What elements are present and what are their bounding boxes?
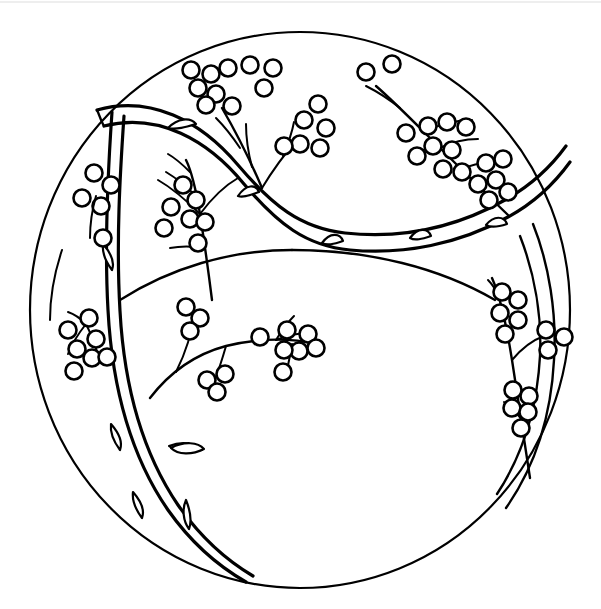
thorn-spur-group: [103, 119, 507, 518]
berry-branch-left-crescent: [50, 196, 96, 320]
leaf-group: [171, 443, 204, 529]
berry-branch-upper-right: [358, 56, 517, 216]
berry-branch-center: [150, 299, 325, 401]
inner-arc-vine-right: [497, 224, 555, 508]
berry-branch-right: [488, 278, 573, 478]
berry-branch-upper-left: [183, 57, 335, 189]
coloring-page-canvas: A large outlined circle divided by a swe…: [0, 0, 601, 609]
berry-branch-left-upper: [74, 154, 239, 300]
line-art-illustration: [0, 0, 601, 609]
lower-body-curve: [120, 250, 495, 300]
